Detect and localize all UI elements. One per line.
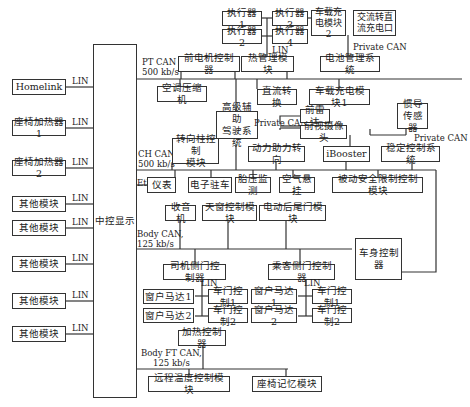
air-suspension: 空气悬挂: [279, 177, 315, 193]
left-module-label: 其他模块: [19, 222, 59, 234]
sunroof-control-module: 天窗控制模块: [202, 205, 257, 221]
left-module-seat-heater-2: 座椅加热器2: [12, 160, 66, 176]
node-label: 天窗控制模块: [204, 201, 255, 225]
passenger-door-control-2: 车门控制2: [312, 308, 352, 323]
stability-control-system: 稳定控制系统: [381, 146, 440, 162]
left-module-other-3: 其他模块: [12, 256, 66, 272]
inertial-sensor: 惯导 传感器: [397, 103, 428, 129]
node-label: 被动安全限制控制模块: [334, 173, 421, 197]
node-label: 车门控制2: [314, 304, 350, 328]
node-label: 电动后尾门模块: [261, 201, 324, 225]
node-label: 窗户马达1: [145, 291, 191, 303]
node-label: 车载充 电模块2: [313, 7, 344, 40]
node-label: 执行器2: [224, 25, 260, 49]
power-tailgate-module: 电动后尾门模块: [259, 205, 326, 221]
node-label: 惯导 传感器: [399, 98, 426, 134]
lin-label: LIN: [72, 157, 88, 167]
left-module-label: 其他模块: [19, 258, 59, 270]
front-motor-controller: 前电机控制器: [178, 56, 240, 72]
actuator-2: 执行器2: [222, 29, 262, 44]
passenger-window-motor-2: 窗户马达2: [251, 308, 297, 323]
lin-label: LIN: [72, 217, 88, 227]
node-label: 车身控制器: [357, 247, 400, 271]
left-module-label: 座椅加热器1: [14, 116, 64, 140]
node-label: 转向柱控制 模块: [174, 133, 217, 169]
lin-label: LIN: [72, 193, 88, 203]
passenger-door-controller: 乘客侧门控制器: [268, 264, 335, 280]
node-label: 窗户马达2: [145, 310, 191, 322]
left-module-other-5: 其他模块: [12, 326, 66, 342]
left-module-homelink: Homelink: [12, 79, 66, 95]
onboard-charger-2: 车载充 电模块2: [311, 10, 346, 36]
body-ft-can-label: Body FT CAN, 125 kb/s: [141, 348, 202, 368]
lin-label: LIN: [72, 253, 88, 263]
node-label: iBooster: [326, 148, 366, 160]
private-can-label: Private CAN: [353, 42, 407, 52]
battery-management-system: 电池管理系统: [320, 56, 380, 72]
body-can-label: Body CAN, 125 kb/s: [137, 229, 184, 249]
node-label: 稳定控制系统: [383, 142, 438, 166]
node-label: 热管理模块: [243, 52, 292, 76]
onboard-charger-1: 车载充电模块1: [309, 89, 370, 105]
dc-dc-converter: 直流转换: [257, 89, 297, 105]
instrument-cluster: 仪表: [147, 177, 176, 193]
front-camera: 前视摄像头: [300, 125, 347, 139]
driver-window-motor-1: 窗户马达1: [143, 289, 194, 304]
node-label: 远程温度控制模块: [150, 372, 228, 396]
left-module-label: 其他模块: [19, 328, 59, 340]
ac-dc-charge-port: 交流转直 流充电口: [353, 10, 396, 36]
power-steering: 动力助力转向: [248, 146, 305, 162]
left-module-label: Homelink: [16, 81, 63, 93]
heater-controller: 加热控制器: [178, 330, 226, 346]
node-label: 直流转换: [259, 85, 295, 109]
actuator-4: 执行器4: [272, 29, 308, 44]
lin-label: LIN: [72, 290, 88, 300]
lin-label: LIN: [72, 117, 88, 127]
left-module-other-1: 其他模块: [12, 196, 66, 212]
thermal-management-module: 热管理模块: [241, 56, 294, 72]
node-label: 电子驻车: [190, 179, 230, 191]
adas-system: 高级辅助 驾驶系统: [216, 111, 258, 139]
node-label: 交流转直 流充电口: [357, 12, 393, 34]
left-module-label: 其他模块: [19, 198, 59, 210]
node-label: 空气悬挂: [281, 173, 313, 197]
node-label: 胎压监测: [237, 173, 269, 197]
passenger-door-control-1: 车门控制1: [312, 289, 352, 304]
pt-can-label: PT CAN 500 kb/s: [142, 57, 179, 77]
ch-can-label: CH CAN 500 kb/s: [138, 149, 175, 169]
radio: 收音机: [165, 205, 196, 221]
node-label: 加热控制器: [180, 326, 224, 350]
node-label: 前电机控制器: [180, 52, 238, 76]
node-label: 座椅记忆模块: [257, 378, 317, 390]
driver-door-control-2: 车门控制2: [208, 308, 248, 323]
central-display: 中控显示: [93, 44, 137, 398]
left-module-label: 座椅加热器2: [14, 156, 64, 180]
tire-pressure-monitor: 胎压监测: [235, 177, 271, 193]
lin-label: LIN: [72, 323, 88, 333]
body-control-module: 车身控制器: [355, 238, 402, 280]
node-label: 车门控制2: [210, 304, 246, 328]
left-module-seat-heater-1: 座椅加热器1: [12, 120, 66, 136]
node-label: 动力助力转向: [250, 142, 303, 166]
node-label: 前视摄像头: [302, 120, 345, 144]
driver-window-motor-2: 窗户马达2: [143, 308, 194, 323]
left-module-label: 其他模块: [19, 295, 59, 307]
node-label: 收音机: [167, 201, 194, 225]
node-label: 窗户马达2: [253, 304, 295, 328]
passenger-window-motor-1: 窗户马达1: [251, 289, 297, 304]
driver-door-control-1: 车门控制1: [208, 289, 248, 304]
node-label: 仪表: [152, 179, 172, 191]
central-display-label: 中控显示: [95, 215, 135, 227]
vehicle-network-diagram: 中控显示 Homelink LIN 座椅加热器1 LIN 座椅加热器2 LIN …: [0, 0, 470, 407]
ac-compressor: 空调压缩机: [157, 86, 207, 102]
left-module-other-2: 其他模块: [12, 220, 66, 236]
lin-label: LIN: [72, 76, 88, 86]
electronic-parking-brake: 电子驻车: [188, 177, 232, 193]
node-label: 空调压缩机: [159, 82, 205, 106]
steering-column-module: 转向柱控制 模块: [172, 138, 219, 164]
passive-restraint-module: 被动安全限制控制模块: [332, 177, 423, 193]
remote-temperature-control-module: 远程温度控制模块: [148, 376, 230, 392]
node-label: 乘客侧门控制器: [270, 260, 333, 284]
left-module-other-4: 其他模块: [12, 293, 66, 309]
ibooster: iBooster: [323, 146, 370, 162]
